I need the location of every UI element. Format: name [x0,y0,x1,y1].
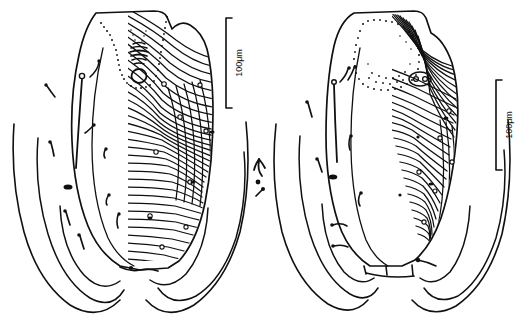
dorsal-view-figure [13,8,248,312]
sclerite-ventral [409,72,431,86]
leg-outer-left-2 [37,138,124,303]
scale-bar-right [496,80,502,170]
transverse-band-ventral [364,258,436,277]
illustration-plate: 100μm 100μm [0,0,524,327]
inner-fold-line-dorsal [92,48,134,266]
lyrifissure-dorsal-1 [64,184,73,189]
detached-setae-group [254,159,265,196]
inner-fold-line-ventral [351,48,388,266]
scale-bar-right-label: 100μm [504,111,514,139]
leg-outer-left-1-ventral [274,124,368,310]
scale-bar-left [226,18,232,108]
scale-bar-left-label: 100μm [234,49,244,77]
illustration-canvas: 100μm 100μm [0,0,524,327]
leg-outer-right-2-ventral [424,150,505,300]
ventral-view-figure [274,11,510,312]
leg-inner-left-1 [60,206,120,286]
lyrifissure-ventral-1 [329,175,338,180]
setae-group-dorsal [44,59,120,249]
posterior-pore-dorsal [129,266,133,270]
setae-group-ventral [305,65,419,248]
leg-inner-right-1-ventral [420,206,470,282]
